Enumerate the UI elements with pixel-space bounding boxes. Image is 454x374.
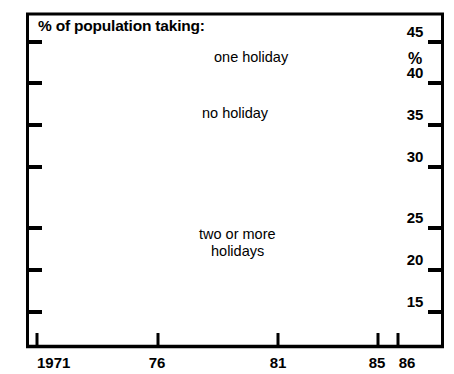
- holiday-taking-line-chart: % of population taking: 45 % 40 35: [0, 0, 454, 374]
- y-tick-label-20: 20: [407, 251, 424, 268]
- chart-container: % of population taking: 45 % 40 35: [0, 0, 454, 374]
- y-tick-label-35: 35: [407, 106, 424, 123]
- x-tick-label-76: 76: [149, 354, 166, 371]
- series-label-two-or-more-holidays-line1: two or more: [199, 226, 276, 242]
- series-label-no-holiday: no holiday: [202, 105, 269, 121]
- y-tick-label-30: 30: [407, 148, 424, 165]
- series-label-one-holiday: one holiday: [214, 49, 289, 65]
- x-tick-label-85: 85: [369, 354, 386, 371]
- x-tick-label-81: 81: [270, 354, 287, 371]
- x-tick-label-86: 86: [399, 354, 416, 371]
- y-tick-label-25: 25: [407, 209, 424, 226]
- series-label-two-or-more-holidays-line2: holidays: [211, 243, 264, 259]
- y-tick-label-15: 15: [407, 293, 424, 310]
- x-tick-label-1971: 1971: [37, 354, 70, 371]
- y-tick-label-45: 45: [407, 23, 424, 40]
- chart-title: % of population taking:: [38, 17, 205, 34]
- y-tick-label-40: 40: [407, 64, 424, 81]
